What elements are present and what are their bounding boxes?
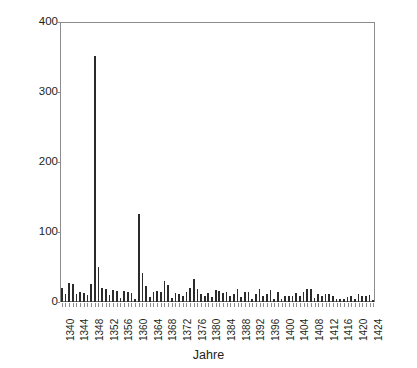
x-tick-mark [238,303,239,307]
y-tick-label: 100 [22,226,58,238]
x-tick-mark [373,303,374,307]
x-axis-title: Jahre [0,348,417,362]
x-tick-mark [164,303,165,307]
x-tick-mark [175,303,176,307]
x-tick-mark [227,303,228,307]
x-tick-label: 1408 [315,319,325,341]
x-tick-mark [150,303,151,307]
x-tick-mark [161,303,162,307]
x-tick-label: 1416 [344,319,354,341]
x-tick-mark [98,303,99,307]
x-tick-mark [267,303,268,307]
x-tick-mark [186,303,187,307]
y-tick-mark [56,162,60,163]
x-tick-mark [285,303,286,307]
x-tick-label: 1364 [154,319,164,341]
x-tick-mark [293,303,294,307]
x-tick-mark [76,303,77,307]
x-tick-mark [256,303,257,307]
x-tick-mark [73,303,74,307]
x-tick-mark [205,303,206,307]
y-axis-tick-labels: 0100200300400 [18,0,58,368]
x-tick-label: 1372 [183,319,193,341]
x-tick-mark [219,303,220,307]
x-tick-label: 1348 [95,319,105,341]
x-tick-mark [212,303,213,307]
x-tick-mark [106,303,107,307]
x-tick-label: 1420 [359,319,369,341]
y-tick-mark [56,92,60,93]
x-tick-label: 1424 [374,319,384,341]
x-tick-mark [271,303,272,307]
x-tick-mark [135,303,136,307]
x-tick-mark [95,303,96,307]
y-tick-mark [56,232,60,233]
y-tick-mark [56,302,60,303]
x-tick-mark [113,303,114,307]
chart-container: Testamente 0100200300400 134013441348135… [0,0,417,368]
x-tick-mark [252,303,253,307]
x-tick-mark [201,303,202,307]
x-tick-mark [300,303,301,307]
x-tick-mark [348,303,349,307]
x-tick-mark [190,303,191,307]
x-tick-mark [91,303,92,307]
x-tick-mark [172,303,173,307]
x-tick-mark [131,303,132,307]
x-tick-label: 1392 [256,319,266,341]
x-tick-mark [355,303,356,307]
x-tick-mark [80,303,81,307]
x-tick-mark [304,303,305,307]
x-tick-mark [311,303,312,307]
x-tick-mark [102,303,103,307]
x-tick-mark [263,303,264,307]
x-tick-mark [260,303,261,307]
x-tick-mark [183,303,184,307]
x-tick-mark [230,303,231,307]
x-tick-mark [153,303,154,307]
x-tick-mark [65,303,66,307]
x-tick-mark [344,303,345,307]
x-tick-mark [362,303,363,307]
x-tick-mark [329,303,330,307]
x-tick-mark [197,303,198,307]
x-tick-mark [194,303,195,307]
x-tick-mark [146,303,147,307]
x-tick-mark [208,303,209,307]
x-tick-mark [296,303,297,307]
x-tick-mark [241,303,242,307]
x-tick-mark [340,303,341,307]
x-tick-mark [333,303,334,307]
y-tick-label: 400 [22,16,58,28]
y-tick-label: 0 [22,296,58,308]
x-tick-mark [370,303,371,307]
x-tick-mark [120,303,121,307]
x-tick-mark [359,303,360,307]
x-tick-label: 1404 [300,319,310,341]
x-tick-mark [326,303,327,307]
x-tick-mark [87,303,88,307]
x-tick-mark [249,303,250,307]
x-tick-mark [179,303,180,307]
x-tick-mark [109,303,110,307]
y-tick-mark [56,22,60,23]
x-tick-mark [157,303,158,307]
x-tick-mark [69,303,70,307]
y-tick-label: 300 [22,86,58,98]
x-tick-label: 1388 [242,319,252,341]
y-tick-label: 200 [22,156,58,168]
x-tick-mark [289,303,290,307]
x-tick-label: 1356 [124,319,134,341]
x-tick-mark [318,303,319,307]
x-tick-mark [223,303,224,307]
x-tick-mark [216,303,217,307]
x-tick-mark [322,303,323,307]
x-tick-label: 1352 [110,319,120,341]
x-tick-mark [337,303,338,307]
x-tick-mark [278,303,279,307]
x-tick-label: 1380 [212,319,222,341]
x-tick-label: 1368 [168,319,178,341]
x-tick-mark [282,303,283,307]
x-tick-mark [245,303,246,307]
x-tick-label: 1376 [198,319,208,341]
